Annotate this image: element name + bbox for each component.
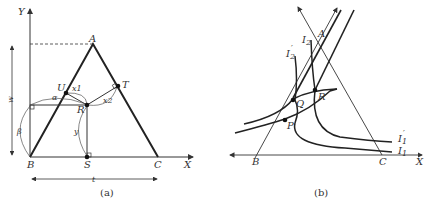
- label-i2: I 2: [301, 34, 311, 47]
- label-s: S: [84, 159, 91, 170]
- label-a: A: [88, 33, 96, 44]
- figure: Y X A B C U T R S x1 x2 α: [0, 0, 430, 203]
- label-x2: x2: [103, 96, 113, 105]
- label-u: U: [57, 82, 66, 93]
- curve-i1p: [314, 90, 392, 142]
- label-beta: β: [16, 127, 22, 136]
- point-q: [291, 98, 296, 103]
- label-c: C: [154, 159, 162, 170]
- right-angle-mark: [30, 105, 34, 109]
- label-i1p: I 1 ′: [397, 128, 407, 146]
- label-alpha: α: [52, 93, 58, 102]
- label-x1: x1: [72, 84, 82, 93]
- svg-text:′: ′: [403, 128, 405, 137]
- curve-i2p: [295, 56, 297, 100]
- label-q: Q: [296, 98, 304, 109]
- y-axis-label: Y: [18, 6, 26, 17]
- label-p: P: [286, 120, 294, 131]
- label-i1: I 1: [397, 145, 407, 158]
- panel-b: X A B C P Q R I 2 ′ I 2: [230, 7, 424, 198]
- label-c-b: C: [379, 156, 387, 167]
- label-i2p: I 2 ′: [285, 43, 295, 61]
- label-a-b: A: [317, 28, 325, 39]
- caption-b: (b): [314, 187, 328, 198]
- diagram-canvas: Y X A B C U T R S x1 x2 α: [0, 0, 430, 203]
- label-b-b: B: [251, 156, 259, 167]
- line-ca: [298, 7, 382, 155]
- x-axis-label-b: X: [415, 156, 424, 167]
- label-t: T: [122, 79, 130, 90]
- point-t: [116, 84, 121, 89]
- point-r: [85, 103, 90, 108]
- label-r-b: R: [317, 91, 326, 102]
- curve-i2: [311, 40, 315, 90]
- svg-text:1: 1: [402, 137, 407, 146]
- point-r-b: [313, 88, 318, 93]
- svg-text:2: 2: [305, 38, 311, 47]
- svg-text:′: ′: [291, 43, 293, 52]
- x-axis-label: X: [183, 159, 192, 170]
- label-r: R: [76, 104, 85, 115]
- label-w: w: [6, 96, 15, 103]
- svg-text:2: 2: [289, 52, 295, 61]
- label-t-dim: t: [92, 175, 96, 184]
- caption-a: (a): [100, 187, 114, 198]
- label-b: B: [26, 159, 34, 170]
- svg-text:1: 1: [402, 149, 407, 158]
- panel-a: Y X A B C U T R S x1 x2 α: [6, 6, 193, 198]
- label-y: y: [73, 127, 79, 136]
